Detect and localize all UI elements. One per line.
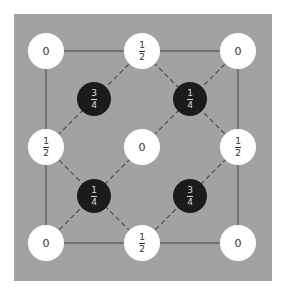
node-label: 0 [43,45,50,58]
node-label: 0 [43,237,50,250]
fraction-label: 12 [139,41,145,62]
white-node: 0 [28,33,64,69]
white-node: 12 [220,129,256,165]
fraction-label: 14 [187,89,193,110]
node-label: 0 [235,45,242,58]
white-node: 12 [28,129,64,165]
white-node: 12 [124,225,160,261]
fraction-label: 12 [43,137,49,158]
dark-node: 14 [173,82,207,116]
node-label: 0 [139,141,146,154]
dark-node: 14 [77,179,111,213]
fraction-label: 12 [139,233,145,254]
fraction-label: 12 [235,137,241,158]
white-node: 0 [28,225,64,261]
fraction-label: 34 [187,186,193,207]
node-label: 0 [235,237,242,250]
dark-node: 34 [173,179,207,213]
white-node: 12 [124,33,160,69]
white-node: 0 [220,33,256,69]
dark-node: 34 [77,82,111,116]
fraction-label: 14 [91,186,97,207]
white-node: 0 [220,225,256,261]
white-node: 0 [124,129,160,165]
fraction-label: 34 [91,89,97,110]
